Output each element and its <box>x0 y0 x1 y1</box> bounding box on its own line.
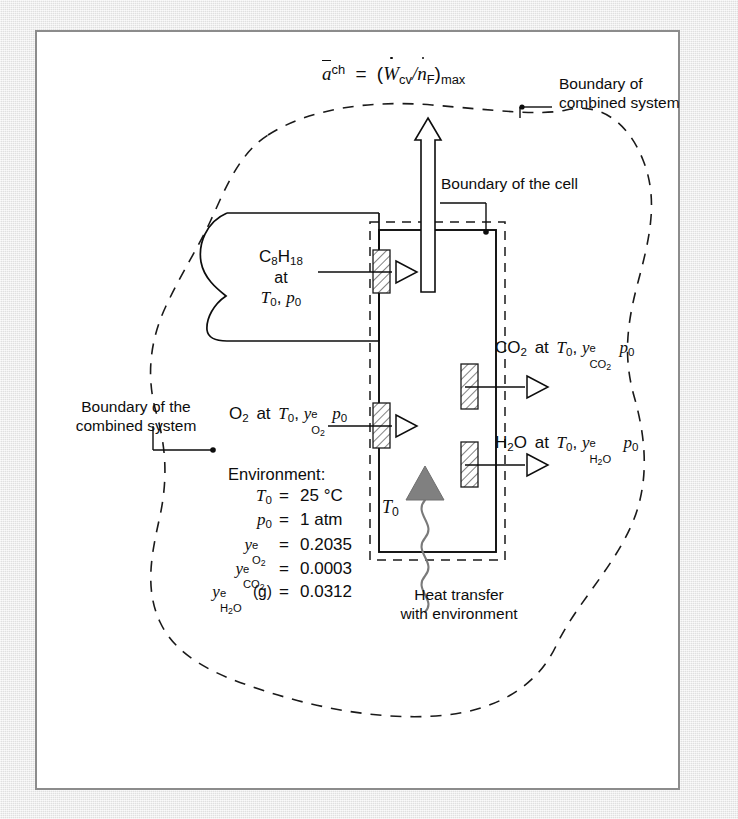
fuel-pressure-subscript: 0 <box>295 296 301 308</box>
fuel-state: T0, p0 <box>243 288 319 309</box>
h2o-outlet-arrowhead <box>527 454 548 476</box>
oxygen-molefraction-symbol: y <box>304 404 312 423</box>
environment-row-p0-value: 1 atm <box>300 510 352 531</box>
leader-cell-dot <box>483 229 489 235</box>
environment-row-yH2O-equals: = <box>279 582 293 603</box>
equals-sign: = <box>355 63 366 84</box>
co2-species-count: 2 <box>521 346 527 358</box>
fuel-pressure-symbol: p <box>286 288 295 307</box>
h2o-molefraction-subscript: H2O <box>590 453 612 468</box>
co2-exit-label: CO2 at T0, yeCO2p0 <box>495 338 634 359</box>
co2-pressure-subscript: 0 <box>628 346 634 358</box>
oxygen-inlet-label: O2 at T0, yeO2p0 <box>229 404 347 425</box>
fuel-temperature-symbol: T <box>261 288 270 307</box>
fuel-tank-left-end <box>200 213 227 341</box>
environment-properties-block: Environment: T0 = 25 °C p0 = 1 atm yeO2 … <box>168 464 352 603</box>
environment-row-p0-equals: = <box>279 510 293 531</box>
heat-transfer-caption-line2: with environment <box>374 605 544 624</box>
environment-row-yO2-value: 0.2035 <box>300 535 352 556</box>
h2o-molefraction-symbol: y <box>582 433 590 452</box>
h2o-molefraction-superscript: e <box>590 437 596 451</box>
fuel-inlet-label: C8H18 at T0, p0 <box>243 247 319 309</box>
co2-molefraction-symbol: y <box>582 338 590 357</box>
environment-row-T0-symbol: T0 <box>168 486 272 507</box>
boundary-combined-left-line1: Boundary of the <box>60 398 212 417</box>
environment-row-yCO2-value: 0.0003 <box>300 559 352 580</box>
oxygen-species-count: 2 <box>242 412 248 424</box>
co2-species: CO <box>495 338 521 357</box>
environment-row-yCO2-equals: = <box>279 559 293 580</box>
co2-molefraction-subscript: CO2 <box>589 358 611 373</box>
a-symbol: a <box>322 62 332 85</box>
combined-system-boundary <box>151 104 652 717</box>
boundary-combined-system-top-label: Boundary of combined system <box>559 75 680 113</box>
max-subscript: max <box>441 72 465 87</box>
co2-at-word: at <box>535 338 549 357</box>
environment-row-T0-value: 25 °C <box>300 486 352 507</box>
oxygen-species: O <box>229 404 242 423</box>
environment-row-yH2O-value: 0.0312 <box>300 582 352 603</box>
boundary-combined-left-line2: combined system <box>60 417 212 436</box>
h2o-at-word: at <box>535 433 549 452</box>
environment-row-T0-equals: = <box>279 486 293 507</box>
environment-heading: Environment: <box>228 464 352 484</box>
h2o-comma: , <box>572 433 577 452</box>
co2-pressure-symbol: p <box>619 338 628 357</box>
fuel-state-comma: , <box>277 288 282 307</box>
fuel-hydrogen: H <box>278 247 290 266</box>
h2o-exit-label: H2O at T0, yeH2Op0 <box>495 433 638 454</box>
oxygen-pressure-subscript: 0 <box>341 412 347 424</box>
fuel-inlet-arrowhead <box>396 261 417 283</box>
heat-transfer-arrowhead <box>406 466 444 500</box>
environment-row-p0-symbol: p0 <box>168 510 272 531</box>
co2-comma: , <box>572 338 577 357</box>
heat-temperature-subscript: 0 <box>392 505 399 519</box>
h2o-temperature-symbol: T <box>557 433 566 452</box>
oxygen-comma: , <box>294 404 299 423</box>
boundary-cell-label: Boundary of the cell <box>441 175 578 194</box>
a-superscript-ch: ch <box>332 62 346 77</box>
co2-molefraction-superscript: e <box>589 342 595 356</box>
oxygen-molefraction-subscript: O2 <box>311 424 325 439</box>
oxygen-at-word: at <box>256 404 270 423</box>
h2o-pressure-subscript: 0 <box>632 441 638 453</box>
co2-outlet-arrowhead <box>527 376 548 398</box>
heat-temperature-symbol: T <box>382 497 392 517</box>
work-output-equation: ach = (Wcv/nF)max <box>322 62 465 88</box>
oxygen-inlet-arrowhead <box>396 415 417 437</box>
leader-combined-left-dot <box>210 447 216 453</box>
boundary-combined-system-left-label: Boundary of the combined system <box>60 398 212 436</box>
boundary-combined-top-line1: Boundary of <box>559 75 680 94</box>
oxygen-pressure-symbol: p <box>332 404 341 423</box>
co2-temperature-symbol: T <box>557 338 566 357</box>
environment-row-yO2-symbol: yeO2 <box>168 535 272 556</box>
environment-row-yO2-equals: = <box>279 535 293 556</box>
fuel-hydrogen-count: 18 <box>290 255 303 267</box>
oxygen-temperature-symbol: T <box>278 404 287 423</box>
h2o-pressure-symbol: p <box>624 433 633 452</box>
fuel-formula: C8H18 <box>243 247 319 268</box>
fuel-carbon: C <box>259 247 271 266</box>
leader-combined-top-dot <box>519 104 524 109</box>
molar-flow-symbol: n <box>417 62 427 85</box>
heat-transfer-temperature-label: T0 <box>382 497 399 520</box>
work-subscript-cv: cv <box>399 72 412 87</box>
heat-transfer-caption: Heat transfer with environment <box>374 586 544 624</box>
work-output-arrow <box>415 118 441 292</box>
heat-transfer-caption-line1: Heat transfer <box>374 586 544 605</box>
fuel-at-word: at <box>243 268 319 288</box>
boundary-combined-top-line2: combined system <box>559 94 680 113</box>
molar-flow-subscript-F: F <box>427 72 435 87</box>
oxygen-molefraction-superscript: e <box>311 408 317 422</box>
h2o-species-oxygen: O <box>514 433 527 452</box>
work-symbol: W <box>383 62 399 85</box>
h2o-species-hydrogen: H <box>495 433 507 452</box>
